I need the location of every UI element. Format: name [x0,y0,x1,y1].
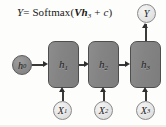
input-node-x2: X2 [94,101,113,120]
equation-state-subscript: 3 [88,12,92,20]
output-equation: Y= Softmax(Vh3 + c) [17,6,112,20]
hidden-state-box-3: h3 [130,41,161,88]
bottom-edge-artifact [0,125,166,127]
input-node-x1: X1 [53,101,72,120]
rnn-unrolled-diagram: Y= Softmax(Vh3 + c) h0 h1 h2 h3 Y X1 X2 … [0,0,166,127]
input-node-x2-subscript: 2 [105,107,108,114]
input-node-x1-subscript: 1 [64,107,67,114]
hidden-state-box-3-label: h3 [131,57,160,71]
hidden-state-box-2-label: h2 [89,57,118,71]
output-node-y: Y [137,4,156,23]
output-node-label: Y [144,8,150,19]
initial-hidden-state-subscript: 0 [23,62,26,69]
input-node-x3: X3 [136,101,155,120]
input-node-x3-subscript: 3 [147,107,150,114]
hidden-state-3-subscript: 3 [147,63,151,71]
hidden-state-box-1-label: h1 [49,57,78,71]
hidden-state-1-subscript: 1 [65,63,69,71]
hidden-state-box-2: h2 [88,41,119,88]
arrowhead-x1-to-h1 [59,87,65,92]
equation-weight-v: V [74,6,81,18]
initial-hidden-state-h0: h0 [12,55,32,75]
equation-plus: + [94,6,100,18]
arrowhead-h3-to-output [142,23,148,28]
hidden-state-2-subscript: 2 [105,63,109,71]
hidden-state-box-1: h1 [48,41,79,88]
arrowhead-x2-to-h2 [100,87,106,92]
equation-softmax: Softmax [32,6,70,18]
arrowhead-x3-to-h3 [142,87,148,92]
equation-equals: = [23,6,29,18]
equation-close-paren: ) [108,6,112,18]
